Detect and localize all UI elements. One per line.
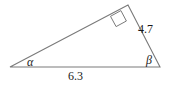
side-right-label: 4.7 bbox=[138, 23, 153, 35]
angle-beta-label: β bbox=[146, 54, 152, 66]
side-base-label: 6.3 bbox=[68, 70, 83, 82]
right-triangle-figure: 4.7 6.3 α β bbox=[0, 0, 171, 85]
angle-alpha-label: α bbox=[27, 56, 33, 68]
triangle-svg bbox=[0, 0, 171, 85]
